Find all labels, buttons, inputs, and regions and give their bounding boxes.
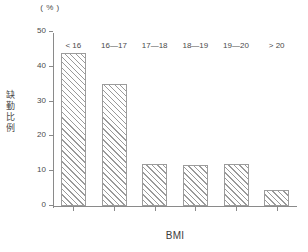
y-axis-title-char-3: 例 [1, 123, 19, 134]
x-axis-tick [277, 207, 278, 211]
y-axis-tick-label: 50 [37, 26, 46, 35]
x-axis-title: BMI [53, 230, 297, 242]
y-axis-title-char-0: 缺 [1, 90, 19, 101]
y-axis-title-char-2: 比 [1, 112, 19, 123]
y-axis-tick-label: 40 [37, 61, 46, 70]
bar [61, 53, 86, 206]
y-axis-tick-label: 0 [42, 200, 46, 209]
y-axis-tick-label: 30 [37, 96, 46, 105]
x-axis-tick-label: 19—20 [223, 41, 249, 51]
y-axis-tick: 0 [49, 205, 53, 206]
x-axis-tick [114, 207, 115, 211]
y-axis-tick: 50 [49, 31, 53, 32]
y-axis-tick: 20 [49, 135, 53, 136]
y-axis-tick: 30 [49, 101, 53, 102]
x-axis-tick-label: 16—17 [101, 41, 127, 51]
x-axis-tick [155, 207, 156, 211]
y-axis-tick-label: 20 [37, 130, 46, 139]
x-axis-tick-label: 18—19 [182, 41, 208, 51]
x-axis-tick-label: 17—18 [142, 41, 168, 51]
x-axis-tick [73, 207, 74, 211]
chart-figure: ( % ) 缺 勤 比 例 01020304050 < 1616—1717—18… [0, 0, 308, 252]
x-axis-tick-label: > 20 [269, 41, 285, 51]
bar [142, 164, 167, 206]
bar [264, 190, 289, 206]
bar [183, 165, 208, 206]
x-axis-tick-label: < 16 [65, 41, 81, 51]
bar [102, 84, 127, 206]
x-axis-tick [236, 207, 237, 211]
plot-area: 01020304050 < 1616—1717—1818—1919—20> 20 [53, 33, 297, 207]
x-axis-line [53, 206, 297, 207]
y-axis-tick: 40 [49, 66, 53, 67]
y-axis-title-char-1: 勤 [1, 101, 19, 112]
y-axis-unit-label: ( % ) [30, 3, 70, 13]
y-axis-tick-label: 10 [37, 165, 46, 174]
x-axis-tick [195, 207, 196, 211]
y-axis-line [53, 33, 54, 208]
bar [224, 164, 249, 206]
y-axis-tick: 10 [49, 170, 53, 171]
y-axis-title: 缺 勤 比 例 [1, 90, 19, 134]
